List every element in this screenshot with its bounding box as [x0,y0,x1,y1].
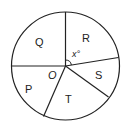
circle-diagram: Q R x° O S T P [0,0,126,127]
angle-label: x° [71,49,81,59]
sector-label-t: T [65,93,72,105]
sector-label-p: P [25,83,32,95]
sector-label-q: Q [35,36,44,48]
angle-arc [66,60,72,65]
center-label: O [48,69,57,81]
sector-label-s: S [95,69,102,81]
sector-label-r: R [82,32,90,44]
